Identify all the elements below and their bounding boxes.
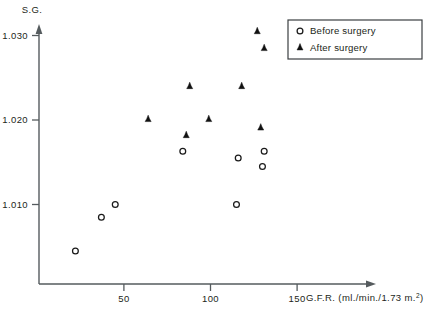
data-point-s0-7 xyxy=(261,148,267,154)
data-point-s1-3 xyxy=(206,115,212,121)
data-points-group xyxy=(73,27,268,254)
legend-marker-open-circle xyxy=(297,28,303,34)
y-tick-label-1.020: 1.020 xyxy=(2,114,28,125)
x-axis-title: G.F.R. (ml./min./1.73 m.2) xyxy=(306,292,424,303)
data-point-s0-0 xyxy=(73,248,79,254)
x-axis-title-main: G.F.R. (ml./min./1.73 m. xyxy=(306,292,416,303)
x-axis-ticks: 50100150 xyxy=(118,284,305,304)
x-tick-label-150: 150 xyxy=(289,293,306,304)
y-tick-label-1.030: 1.030 xyxy=(2,30,28,41)
data-point-s1-6 xyxy=(261,44,267,50)
data-point-s1-0 xyxy=(145,115,151,121)
scatter-plot: 1.0101.0201.030 50100150 S.G. G.F.R. (ml… xyxy=(0,0,433,315)
y-tick-label-1.010: 1.010 xyxy=(2,199,28,210)
x-tick-label-50: 50 xyxy=(118,293,129,304)
data-point-s1-1 xyxy=(187,82,193,88)
x-tick-label-100: 100 xyxy=(202,293,219,304)
legend-label: After surgery xyxy=(310,42,368,53)
y-axis-title: S.G. xyxy=(22,4,43,15)
data-point-s1-4 xyxy=(239,82,245,88)
axes-group xyxy=(36,24,376,287)
y-axis-arrowhead xyxy=(36,24,43,34)
data-point-s1-5 xyxy=(254,27,260,33)
series-before-surgery xyxy=(73,148,268,254)
data-point-s1-7 xyxy=(258,124,264,130)
data-point-s0-5 xyxy=(235,155,241,161)
data-point-s1-2 xyxy=(183,131,189,137)
data-point-s0-4 xyxy=(234,202,240,208)
legend: Before surgeryAfter surgery xyxy=(288,20,422,59)
data-point-s0-2 xyxy=(112,202,118,208)
y-axis-ticks: 1.0101.0201.030 xyxy=(2,30,39,210)
data-point-s0-1 xyxy=(98,214,104,220)
x-axis-title-tail: ) xyxy=(420,292,424,303)
x-axis-arrowhead xyxy=(366,281,376,288)
legend-label: Before surgery xyxy=(310,25,376,36)
data-point-s0-6 xyxy=(260,164,266,170)
data-point-s0-3 xyxy=(180,148,186,154)
series-after-surgery xyxy=(145,27,267,137)
